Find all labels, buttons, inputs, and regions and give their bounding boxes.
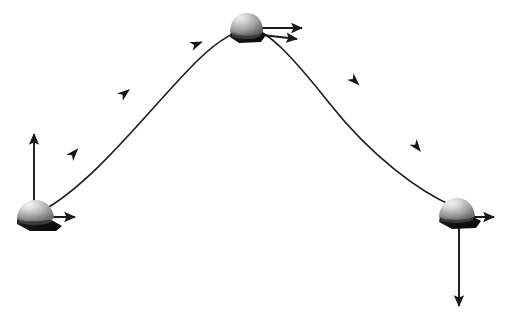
trajectory-path-group [42, 29, 453, 211]
trajectory-arc [42, 29, 453, 211]
direction-marker-5-icon [409, 139, 424, 155]
projectile-landing-object [439, 198, 481, 229]
projectile-apex-dome [230, 13, 263, 36]
projectile-motion-figure [0, 0, 521, 323]
projectile-apex-group [230, 13, 302, 43]
direction-marker-1-icon [66, 145, 81, 161]
projectile-landing-group [439, 198, 494, 306]
figure-canvas [0, 0, 521, 323]
trajectory-direction-markers [66, 37, 424, 161]
projectile-launch-group [17, 134, 75, 231]
direction-marker-4-icon [347, 73, 363, 89]
projectile-launch-object [17, 200, 62, 231]
projectile-launch-dome [17, 200, 54, 222]
direction-marker-2-icon [117, 85, 133, 100]
direction-marker-3-icon [189, 37, 204, 50]
projectile-apex-object [230, 13, 266, 43]
